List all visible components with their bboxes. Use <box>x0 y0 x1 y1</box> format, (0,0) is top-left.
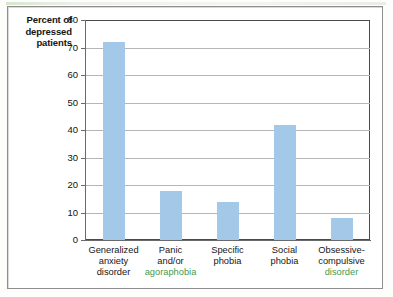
x-axis-category-label: Obsessive-compulsivedisorder <box>303 245 381 279</box>
bar <box>160 191 182 241</box>
y-axis-tick-mark <box>81 158 85 159</box>
y-axis-tick-label: 0 <box>52 235 78 245</box>
y-axis-tick-mark <box>81 48 85 49</box>
y-axis-tick-label: 10 <box>52 208 78 218</box>
y-axis-tick-label: 50 <box>52 98 78 108</box>
scanned-page: Percent of depressed patients 0102030405… <box>0 0 393 297</box>
y-axis-tick-mark <box>81 20 85 21</box>
x-axis-category-label-line: compulsive <box>303 256 381 267</box>
y-axis-tick-label: 80 <box>52 15 78 25</box>
y-axis-tick-label: 40 <box>52 125 78 135</box>
y-axis-tick-mark <box>81 130 85 131</box>
bar <box>103 42 125 240</box>
gridline <box>86 130 370 131</box>
y-axis-tick-label: 70 <box>52 43 78 53</box>
y-axis-tick-label: 20 <box>52 180 78 190</box>
y-axis-tick-mark <box>81 75 85 76</box>
y-axis-tick-label: 30 <box>52 153 78 163</box>
bar <box>274 125 296 241</box>
y-axis-tick-mark <box>81 213 85 214</box>
y-axis-tick-label: 60 <box>52 70 78 80</box>
bar <box>331 218 353 240</box>
gridline <box>86 48 370 49</box>
y-axis-title-line-2: depressed <box>10 26 72 38</box>
gridline <box>86 75 370 76</box>
scan-edge-tint <box>6 2 386 5</box>
y-axis-tick-mark <box>81 103 85 104</box>
gridline <box>86 103 370 104</box>
y-axis-tick-mark <box>81 240 85 241</box>
x-axis-category-label-line: Obsessive- <box>303 245 381 256</box>
gridline <box>86 185 370 186</box>
x-axis-category-label-line: disorder <box>303 267 381 278</box>
bar <box>217 202 239 241</box>
y-axis-tick-mark <box>81 185 85 186</box>
x-axis-line <box>85 240 371 241</box>
x-axis-category-label-line: agoraphobia <box>132 267 210 278</box>
gridline <box>86 158 370 159</box>
